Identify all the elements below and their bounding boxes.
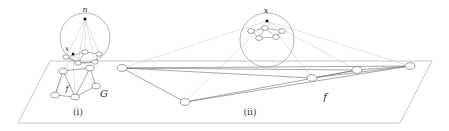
graph-edge [185,66,410,102]
graph-node [117,65,127,72]
panel-captions-group: (i)(ii) [73,107,256,117]
graph-edges-right-group [122,66,410,102]
sphere-graph-node [273,35,280,40]
label-G-graph: G [100,88,108,99]
sphere-graph-node [262,26,269,31]
sphere-graph-node [96,52,102,56]
graph-edge [122,68,185,102]
panel-ii-label: (ii) [244,107,257,117]
sphere-graph-node [256,36,263,41]
projection-ray [267,21,357,70]
graph-node [405,63,415,70]
graph-node [352,67,362,74]
graph-node [307,75,317,82]
apex-point-x-left [72,53,74,55]
graph-edge [75,68,90,97]
label-f-right-edge: f [322,91,329,102]
sphere-graph-node [75,61,81,65]
graph-node [51,92,59,98]
sphere-graph-node [63,55,69,59]
graph-nodes-left-group [51,65,100,100]
figure-container: nxGfxf (i)(ii) [0,0,449,131]
graph-node [59,68,67,74]
apex-points-group [72,18,269,56]
projection-ray [55,54,73,95]
apex-point-x-right [266,20,269,23]
projection-ray [185,21,267,102]
label-x-left-sphere: x [65,45,69,53]
graph-node [180,99,190,106]
sphere-graph-node [92,60,98,64]
sphere-graph-node [279,29,286,34]
projection-rays-right-group [122,21,410,102]
graph-edge [312,70,357,78]
graph-node [92,83,100,89]
graph-edge [55,71,63,95]
sphere-graph-node [82,50,88,54]
label-x-right-sphere: x [264,6,269,15]
label-n-top-left-sphere: n [82,5,87,14]
panel-i-label: (i) [73,107,83,117]
graph-node [86,65,94,71]
sphere-graph-node [248,29,255,34]
projection-ray [267,21,410,66]
apex-point-n [84,18,87,21]
graph-node [71,94,79,100]
geometry-figure: nxGfxf (i)(ii) [0,0,449,131]
